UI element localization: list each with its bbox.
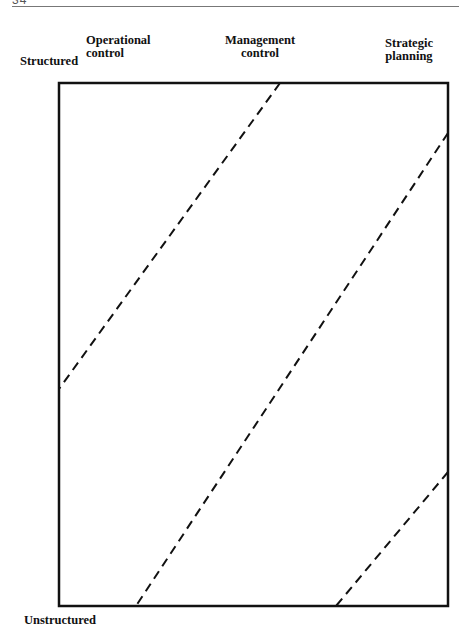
dashed-divider-3	[336, 472, 448, 606]
dashed-divider-2	[136, 133, 448, 606]
frame-box	[59, 83, 448, 606]
framework-diagram	[0, 0, 470, 635]
dashed-divider-1	[59, 83, 280, 389]
